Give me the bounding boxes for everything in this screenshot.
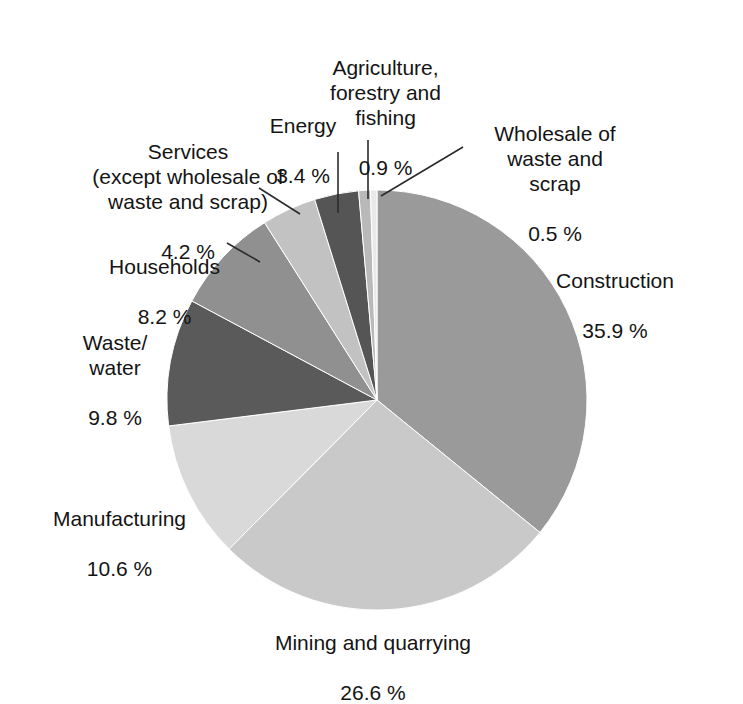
slice-label-construction-pct: 35.9 % bbox=[525, 318, 705, 343]
slice-label-waste-water-name: Waste/ water bbox=[50, 330, 180, 380]
slice-label-manufacturing-pct: 10.6 % bbox=[17, 556, 222, 581]
slice-label-construction-name: Construction bbox=[525, 268, 705, 293]
slice-label-services-name: Services (except wholesale of waste and … bbox=[58, 139, 318, 214]
slice-label-waste-water-pct: 9.8 % bbox=[50, 405, 180, 430]
slice-label-mining: Mining and quarrying 26.6 % bbox=[242, 605, 504, 704]
slice-label-mining-pct: 26.6 % bbox=[242, 680, 504, 704]
slice-label-manufacturing-name: Manufacturing bbox=[17, 506, 222, 531]
slice-label-mining-name: Mining and quarrying bbox=[242, 630, 504, 655]
slice-label-construction: Construction 35.9 % bbox=[525, 243, 705, 368]
slice-label-wholesale-name: Wholesale of waste and scrap bbox=[470, 121, 640, 196]
slice-label-households-name: Households bbox=[72, 254, 257, 279]
slice-label-manufacturing: Manufacturing 10.6 % bbox=[17, 481, 222, 606]
slice-label-waste-water: Waste/ water 9.8 % bbox=[50, 305, 180, 455]
